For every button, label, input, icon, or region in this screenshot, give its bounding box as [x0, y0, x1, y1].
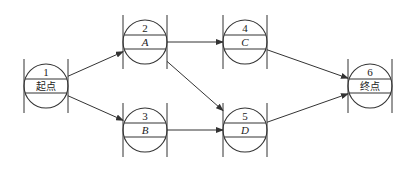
node-label: B: [142, 124, 149, 136]
node-2: 2A: [123, 15, 167, 69]
node-number: 6: [367, 66, 373, 78]
node-label: C: [241, 36, 249, 48]
node-number: 4: [242, 22, 248, 34]
edge-5-to-6: [267, 94, 348, 123]
edges: [68, 42, 348, 130]
edge-1-to-3: [68, 96, 123, 120]
network-diagram: 1起点2A3B4C5D6终点: [0, 0, 413, 174]
edge-1-to-2: [68, 52, 123, 76]
node-4: 4C: [223, 15, 267, 69]
node-label: D: [240, 124, 249, 136]
edge-4-to-6: [267, 50, 348, 79]
node-1: 1起点: [24, 59, 68, 113]
node-number: 2: [142, 22, 148, 34]
edge-2-to-5: [167, 61, 223, 110]
node-label: 起点: [36, 81, 56, 92]
nodes: 1起点2A3B4C5D6终点: [24, 15, 392, 157]
node-6: 6终点: [348, 59, 392, 113]
node-label: 终点: [360, 80, 380, 92]
node-label: A: [141, 36, 149, 48]
node-3: 3B: [123, 103, 167, 157]
node-5: 5D: [223, 103, 267, 157]
node-number: 1: [43, 66, 49, 78]
node-number: 5: [242, 110, 248, 122]
node-number: 3: [142, 110, 148, 122]
